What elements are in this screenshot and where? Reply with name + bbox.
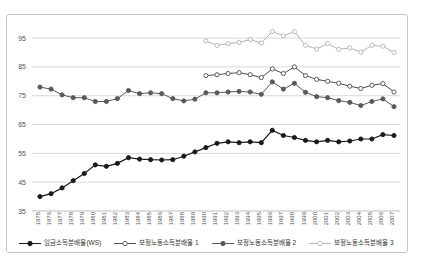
chart-canvas: 3545556575859519751976197719781979198019… — [0, 0, 423, 264]
series-0-marker — [93, 163, 97, 167]
svg-text:1975: 1975 — [35, 211, 41, 225]
svg-text:1984: 1984 — [135, 211, 141, 225]
series-0-marker — [337, 140, 341, 144]
series-3-marker — [370, 43, 374, 47]
legend-marker-adjusted-2-filled-circle-icon — [212, 239, 234, 248]
legend-label-adjusted-2: 보정노동소득분배율 2 — [237, 240, 296, 247]
series-2-marker — [359, 103, 363, 107]
series-0-line — [40, 130, 394, 196]
series-3-marker — [315, 47, 319, 51]
series-1-marker — [348, 84, 352, 88]
series-2-marker — [115, 97, 119, 101]
svg-text:1981: 1981 — [101, 211, 107, 225]
series-2-marker — [326, 96, 330, 100]
series-0-marker — [259, 141, 263, 145]
series-0-marker — [126, 156, 130, 160]
series-0-marker — [215, 141, 219, 145]
series-0-marker — [115, 161, 119, 165]
series-0-marker — [348, 139, 352, 143]
series-2-marker — [71, 96, 75, 100]
series-2-marker — [182, 99, 186, 103]
series-0-marker — [315, 140, 319, 144]
svg-text:1989: 1989 — [190, 211, 196, 225]
series-0-marker — [359, 137, 363, 141]
series-0-marker — [149, 158, 153, 162]
series-0-marker — [237, 141, 241, 145]
series-0-marker — [104, 164, 108, 168]
series-2-marker — [348, 100, 352, 104]
svg-text:2000: 2000 — [312, 211, 318, 225]
series-1-marker — [315, 77, 319, 81]
series-2-marker — [171, 97, 175, 101]
svg-text:1988: 1988 — [179, 211, 185, 225]
legend-item-ws: 임금소득분배율(WS) — [19, 239, 101, 248]
svg-text:45: 45 — [18, 179, 26, 186]
svg-text:2007: 2007 — [389, 211, 395, 225]
svg-text:65: 65 — [18, 121, 26, 128]
legend: 임금소득분배율(WS) 보정노동소득분배율 1 보정노동소득분배율 2 보정노동… — [6, 239, 407, 248]
series-1-marker — [226, 71, 230, 75]
series-0-marker — [248, 140, 252, 144]
svg-text:55: 55 — [18, 150, 26, 157]
svg-text:2006: 2006 — [378, 211, 384, 225]
series-0-marker — [270, 128, 274, 132]
svg-text:1985: 1985 — [146, 211, 152, 225]
svg-text:2001: 2001 — [323, 211, 329, 225]
series-3-marker — [359, 50, 363, 54]
series-0-marker — [370, 137, 374, 141]
series-2-marker — [292, 81, 296, 85]
series-3-marker — [259, 41, 263, 45]
series-2-marker — [82, 96, 86, 100]
series-2-marker — [60, 93, 64, 97]
series-2-marker — [281, 87, 285, 91]
legend-marker-ws-filled-circle-icon — [19, 239, 41, 248]
series-1-marker — [270, 67, 274, 71]
svg-text:1978: 1978 — [68, 211, 74, 225]
series-3-marker — [248, 37, 252, 41]
series-0-marker — [392, 133, 396, 137]
legend-item-adjusted-1: 보정노동소득분배율 1 — [114, 239, 198, 248]
series-0-marker — [38, 195, 42, 199]
series-0-marker — [171, 158, 175, 162]
series-0-marker — [82, 171, 86, 175]
series-0-marker — [326, 138, 330, 142]
series-0-marker — [226, 140, 230, 144]
legend-label-adjusted-1: 보정노동소득분배율 1 — [139, 240, 198, 247]
svg-text:85: 85 — [18, 63, 26, 70]
series-3-marker — [292, 30, 296, 34]
series-3-marker — [204, 39, 208, 43]
series-0-marker — [292, 135, 296, 139]
series-2-marker — [193, 97, 197, 101]
series-3-marker — [281, 34, 285, 38]
series-1 — [204, 65, 396, 94]
series-2-marker — [381, 97, 385, 101]
series-1-marker — [237, 71, 241, 75]
legend-item-adjusted-2: 보정노동소득분배율 2 — [212, 239, 296, 248]
series-3-marker — [381, 44, 385, 48]
legend-label-ws: 임금소득분배율(WS) — [44, 240, 101, 247]
series-1-marker — [326, 79, 330, 83]
series-0-marker — [71, 179, 75, 183]
svg-text:1993: 1993 — [234, 211, 240, 225]
svg-text:75: 75 — [18, 92, 26, 99]
series-2-marker — [138, 92, 142, 96]
series-2-marker — [226, 90, 230, 94]
series-2-marker — [337, 99, 341, 103]
svg-text:1980: 1980 — [90, 211, 96, 225]
svg-text:1990: 1990 — [201, 211, 207, 225]
series-2-marker — [160, 92, 164, 96]
series-1-marker — [337, 81, 341, 85]
svg-text:1995: 1995 — [256, 211, 262, 225]
series-2-marker — [93, 99, 97, 103]
svg-text:1991: 1991 — [212, 211, 218, 225]
svg-text:35: 35 — [18, 208, 26, 215]
series-1-marker — [370, 83, 374, 87]
svg-text:1996: 1996 — [267, 211, 273, 225]
series-3-marker — [303, 43, 307, 47]
series-2-marker — [270, 80, 274, 84]
svg-text:1992: 1992 — [223, 211, 229, 225]
series-2-marker — [303, 90, 307, 94]
svg-text:1994: 1994 — [245, 211, 251, 225]
series-2-marker — [38, 85, 42, 89]
svg-text:1986: 1986 — [157, 211, 163, 225]
